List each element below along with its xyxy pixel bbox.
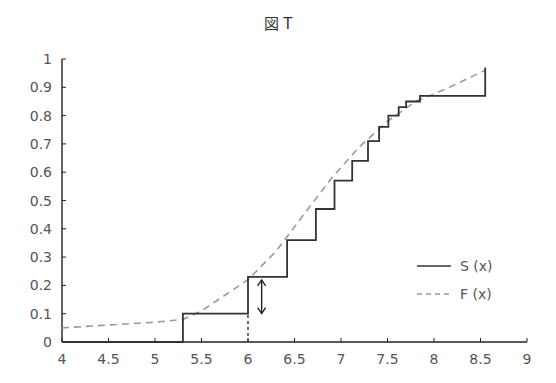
y-tick-label: 0.6 — [30, 164, 52, 180]
y-tick-label: 0.7 — [30, 136, 52, 152]
y-tick-label: 0.1 — [30, 306, 52, 322]
series-f-line — [62, 70, 485, 328]
x-tick-label: 6.5 — [283, 351, 305, 367]
legend: S (x) F (x) — [417, 258, 493, 302]
series-layer — [62, 68, 485, 343]
y-tick-label: 0.4 — [30, 221, 52, 237]
y-tick-label: 0.5 — [30, 193, 52, 209]
y-tick-label: 0.3 — [30, 249, 52, 265]
series-s-step — [62, 68, 485, 343]
legend-s-label: S (x) — [460, 258, 493, 274]
x-tick-label: 6 — [244, 351, 253, 367]
x-tick-label: 7 — [337, 351, 346, 367]
x-tick-label: 4.5 — [97, 351, 119, 367]
x-tick-label: 5.5 — [190, 351, 212, 367]
y-tick-label: 0.2 — [30, 277, 52, 293]
y-tick-label: 0.8 — [30, 108, 52, 124]
x-tick-label: 5 — [151, 351, 160, 367]
y-tick-label: 0.9 — [30, 79, 52, 95]
y-tick-label: 1 — [43, 51, 52, 67]
x-tick-label: 9 — [523, 351, 532, 367]
x-tick-label: 8.5 — [469, 351, 491, 367]
chart-area: 44.555.566.577.588.5900.10.20.30.40.50.6… — [0, 0, 556, 383]
legend-f-label: F (x) — [460, 286, 492, 302]
x-tick-label: 8 — [430, 351, 439, 367]
x-tick-label: 4 — [58, 351, 67, 367]
annotation-layer — [248, 280, 266, 342]
y-tick-label: 0 — [43, 334, 52, 350]
x-tick-label: 7.5 — [376, 351, 398, 367]
axes: 44.555.566.577.588.5900.10.20.30.40.50.6… — [30, 51, 532, 367]
